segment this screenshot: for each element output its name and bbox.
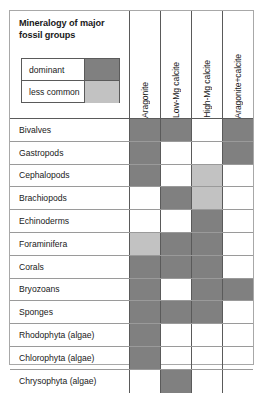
grid-cell	[129, 370, 160, 393]
grid-cell	[129, 165, 160, 187]
grid-cell	[129, 324, 160, 346]
grid-cell	[222, 165, 253, 187]
grid-cell	[160, 301, 191, 323]
table-row: Bivalves	[10, 119, 253, 142]
column-header-label: High-Mg calcite	[202, 55, 212, 118]
table-row: Sponges	[10, 301, 253, 324]
grid-cell	[160, 347, 191, 369]
grid-cell	[222, 370, 253, 393]
table-row: Echinoderms	[10, 210, 253, 233]
grid-cell	[129, 347, 160, 369]
legend-row-less-common: less common	[22, 81, 119, 103]
row-label-12: Chrysophyta (algae)	[19, 370, 96, 393]
grid-cell	[222, 142, 253, 164]
table-row: Brachiopods	[10, 187, 253, 210]
grid-cell	[222, 347, 253, 369]
table-row: Cephalopods	[10, 165, 253, 188]
grid-cell	[129, 187, 160, 209]
grid-cell	[160, 279, 191, 301]
column-header-strip: AragoniteLow-Mg calciteHigh-Mg calciteAr…	[129, 11, 253, 118]
row-label-11: Chlorophyta (algae)	[19, 347, 94, 369]
grid-cell	[160, 165, 191, 187]
grid-cell	[129, 256, 160, 278]
legend-row-dominant: dominant	[22, 59, 119, 81]
grid-cell	[191, 301, 222, 323]
grid-cell	[191, 165, 222, 187]
grid-cell	[129, 210, 160, 232]
table-row: Bryozoans	[10, 279, 253, 302]
grid-cell	[191, 256, 222, 278]
row-label-6: Foraminifera	[19, 233, 67, 255]
grid-cell	[129, 142, 160, 164]
grid-cell	[191, 210, 222, 232]
table-row: Rhodophyta (algae)	[10, 324, 253, 347]
grid-cell	[160, 233, 191, 255]
grid-cell	[160, 210, 191, 232]
grid-cell	[191, 233, 222, 255]
grid-cell	[160, 187, 191, 209]
grid-cell	[191, 119, 222, 141]
page-title-line-1: Mineralogy of major	[19, 18, 125, 30]
grid-cell	[191, 142, 222, 164]
table-row: Foraminifera	[10, 233, 253, 256]
grid-cell	[129, 301, 160, 323]
table-row: Chrysophyta (algae)	[10, 370, 253, 393]
grid-cell	[222, 301, 253, 323]
table-row: Gastropods	[10, 142, 253, 165]
column-header-1: Aragonite	[129, 11, 160, 118]
row-label-9: Sponges	[19, 301, 53, 323]
grid-cell	[222, 233, 253, 255]
grid-cell	[191, 187, 222, 209]
grid-cell	[129, 119, 160, 141]
grid-cell	[160, 370, 191, 393]
page-title-line-2: fossil groups	[19, 30, 125, 42]
grid-cell	[222, 210, 253, 232]
legend-swatch-dominant	[84, 59, 119, 80]
grid-cell	[191, 370, 222, 393]
grid-cell	[222, 279, 253, 301]
grid-cell	[160, 119, 191, 141]
row-label-7: Corals	[19, 256, 44, 278]
legend-label-dominant: dominant	[22, 65, 64, 75]
grid-cell	[160, 256, 191, 278]
legend-label-less-common: less common	[22, 87, 80, 97]
row-label-8: Bryozoans	[19, 279, 60, 301]
table-row: Corals	[10, 256, 253, 279]
grid-cell	[222, 324, 253, 346]
mineralogy-grid: BivalvesGastropodsCephalopodsBrachiopods…	[10, 119, 253, 364]
grid-cell	[191, 324, 222, 346]
mineralogy-figure: Mineralogy of major fossil groups domina…	[9, 10, 254, 365]
grid-cell	[129, 233, 160, 255]
figure-title: Mineralogy of major fossil groups	[19, 18, 125, 41]
row-label-5: Echinoderms	[19, 210, 69, 232]
legend-box: dominant less common	[21, 58, 120, 103]
grid-cell	[222, 187, 253, 209]
column-header-3: High-Mg calcite	[191, 11, 222, 118]
grid-cell	[160, 142, 191, 164]
row-label-4: Brachiopods	[19, 187, 67, 209]
row-label-1: Bivalves	[19, 119, 51, 141]
grid-cell	[222, 256, 253, 278]
table-row: Chlorophyta (algae)	[10, 347, 253, 370]
column-header-2: Low-Mg calcite	[160, 11, 191, 118]
row-label-3: Cephalopods	[19, 165, 70, 187]
row-label-10: Rhodophyta (algae)	[19, 324, 95, 346]
grid-cell	[191, 347, 222, 369]
grid-cell	[129, 279, 160, 301]
column-header-label: Low-Mg calcite	[171, 57, 181, 118]
column-header-label: Aragonite	[140, 77, 150, 118]
grid-cell	[222, 119, 253, 141]
row-label-2: Gastropods	[19, 142, 63, 164]
column-header-label: Aragonite+calcite	[233, 49, 243, 118]
legend-swatch-less-common	[84, 81, 119, 103]
figure-header: Mineralogy of major fossil groups domina…	[10, 11, 253, 118]
grid-cell	[191, 279, 222, 301]
grid-cell	[160, 324, 191, 346]
column-header-4: Aragonite+calcite	[222, 11, 253, 118]
